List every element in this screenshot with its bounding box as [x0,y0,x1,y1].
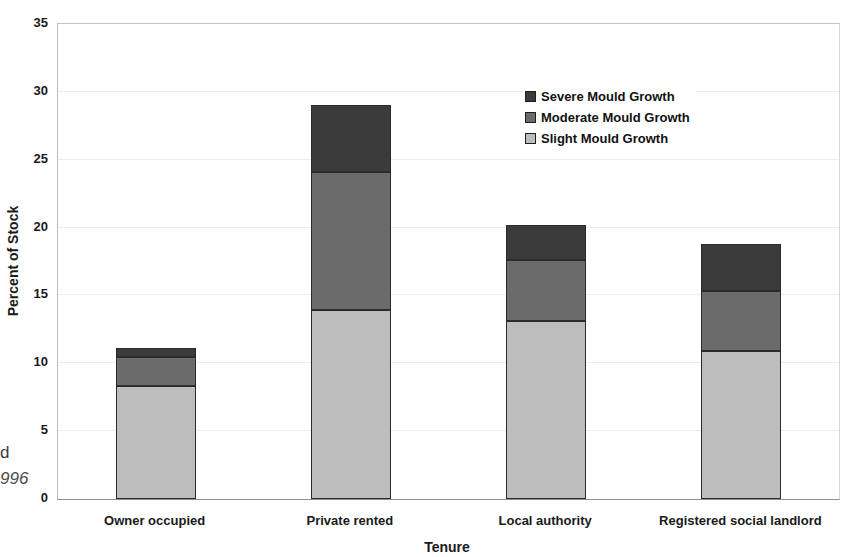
bar-segment-owner-occupied-severe [116,348,196,356]
plot-area: Severe Mould GrowthModerate Mould Growth… [57,23,840,500]
gridline-25 [58,159,839,160]
legend-label: Severe Mould Growth [541,88,675,105]
legend: Severe Mould GrowthModerate Mould Growth… [523,82,696,153]
y-axis-title: Percent of Stock [5,156,23,366]
gridline-20 [58,227,839,228]
legend-item-slight: Slight Mould Growth [525,130,690,147]
legend-label: Moderate Mould Growth [541,109,690,126]
legend-item-severe: Severe Mould Growth [525,88,690,105]
legend-item-moderate: Moderate Mould Growth [525,109,690,126]
chart-figure: Severe Mould GrowthModerate Mould Growth… [0,0,843,557]
bar-segment-private-rented-severe [311,105,391,172]
bar-segment-owner-occupied-slight [116,386,196,499]
legend-key-icon [525,133,536,144]
bar-segment-local-authority-severe [506,225,586,260]
bar-segment-private-rented-moderate [311,172,391,310]
bar-segment-local-authority-slight [506,321,586,499]
legend-label: Slight Mould Growth [541,130,668,147]
x-category-label-private-rented: Private rented [253,513,447,528]
legend-key-icon [525,112,536,123]
y-tick-label-0: 0 [16,491,48,505]
page-text-fragment: 996 [0,470,28,488]
bar-segment-registered-social-landlord-slight [701,351,781,499]
gridline-30 [58,91,839,92]
bar-segment-owner-occupied-moderate [116,357,196,387]
bar-segment-local-authority-moderate [506,260,586,321]
y-tick-label-30: 30 [16,84,48,98]
x-axis-title: Tenure [347,539,547,555]
x-category-label-owner-occupied: Owner occupied [58,513,252,528]
legend-key-icon [525,91,536,102]
bar-segment-registered-social-landlord-severe [701,244,781,292]
x-category-label-local-authority: Local authority [448,513,642,528]
bar-segment-registered-social-landlord-moderate [701,291,781,351]
bar-segment-private-rented-slight [311,310,391,499]
page-text-fragment: d [0,444,9,462]
y-tick-label-35: 35 [16,16,48,30]
x-category-label-registered-social-landlord: Registered social landlord [643,513,837,528]
y-tick-label-5: 5 [16,423,48,437]
